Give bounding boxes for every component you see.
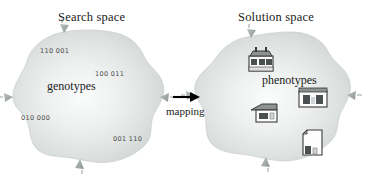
tower-building-icon (303, 130, 322, 155)
genotype-code: 010 000 (21, 114, 50, 122)
genotypes-label: genotypes (47, 79, 96, 94)
search-space-title: Search space (58, 10, 125, 25)
wide-building-icon (299, 88, 327, 107)
mapping-label: mapping (166, 105, 205, 117)
genotype-code: 110 001 (40, 47, 69, 55)
genotype-code: 001 110 (113, 135, 142, 143)
phenotypes-label: phenotypes (262, 73, 317, 88)
solution-space-title: Solution space (238, 10, 314, 25)
figure-canvas: Search space genotypes 110 001 100 011 0… (0, 0, 372, 184)
genotype-code: 100 011 (95, 70, 124, 78)
